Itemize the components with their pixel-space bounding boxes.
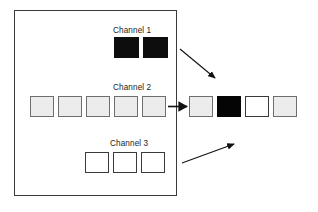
channel-3-cell-0 — [85, 152, 109, 173]
channel-2-cell-2 — [86, 96, 110, 117]
channel-3-cell-2 — [141, 152, 165, 173]
output-cell-3 — [273, 96, 297, 117]
channel-2-cell-3 — [114, 96, 138, 117]
channel-2-label: Channel 2 — [113, 83, 151, 92]
diagram-canvas: Channel 1 Channel 2 Channel 3 — [0, 0, 318, 212]
channel-1-cell-0 — [114, 37, 139, 58]
output-cell-1 — [217, 96, 241, 117]
channel-3-label: Channel 3 — [110, 139, 148, 148]
output-cell-2 — [245, 96, 269, 117]
channel-1-cell-1 — [143, 37, 168, 58]
arrow-up-right-icon — [182, 144, 234, 163]
channel-2-cell-0 — [30, 96, 54, 117]
channel-2-cell-4 — [142, 96, 166, 117]
arrow-down-right-icon — [180, 49, 215, 78]
channel-3-cell-1 — [113, 152, 137, 173]
output-cell-0 — [189, 96, 213, 117]
channel-2-cell-1 — [58, 96, 82, 117]
channel-1-label: Channel 1 — [113, 26, 151, 35]
